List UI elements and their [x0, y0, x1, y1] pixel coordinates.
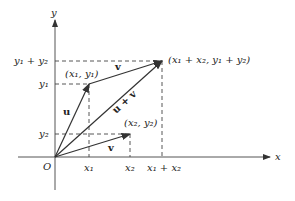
- vector-v-top: [89, 61, 162, 84]
- vector-label-v-top: v: [114, 61, 122, 72]
- x-tick-x1: x₁: [84, 162, 94, 173]
- y-axis-label: y: [50, 7, 57, 18]
- x-axis-label: x: [275, 151, 281, 162]
- vector-label-u: u: [63, 106, 70, 117]
- vector-v-bottom: [55, 134, 130, 157]
- point-label-sum: (x₁ + x₂, y₁ + y₂): [168, 54, 250, 65]
- x-tick-x2: x₂: [125, 162, 135, 173]
- origin-label: O: [43, 161, 51, 172]
- y-tick-y1-plus-y2: y₁ + y₂: [13, 55, 48, 66]
- vector-u: [55, 84, 89, 157]
- y-tick-y1: y₁: [38, 78, 49, 89]
- vector-label-sum: u + v: [110, 87, 139, 115]
- point-label-p2: (x₂, y₂): [124, 117, 158, 128]
- vector-addition-diagram: y x O y₁ + y₂ y₁ y₂ x₁ x₂ x₁ + x₂ (x₁, y…: [0, 0, 295, 201]
- y-tick-y2: y₂: [38, 128, 49, 139]
- point-label-p1: (x₁, y₁): [65, 68, 99, 79]
- vector-label-v-bottom: v: [107, 142, 115, 153]
- x-tick-x1-plus-x2: x₁ + x₂: [147, 162, 181, 173]
